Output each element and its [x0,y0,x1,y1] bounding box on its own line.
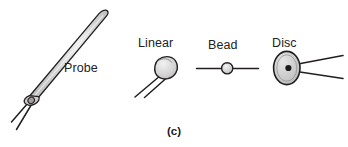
linear-lead-2 [145,78,167,98]
disc-label: Disc [272,36,297,50]
bead-body [222,63,233,74]
linear-element: Linear [135,36,177,98]
probe-label: Probe [64,61,98,75]
disc-element: Disc [272,36,343,85]
figure-caption: (c) [167,125,181,137]
linear-body [155,57,178,79]
disc-center-contact [285,65,291,71]
figure-canvas: Probe Linear Bead [0,0,348,147]
probe-highlight [34,16,104,98]
thermistor-types-figure: Probe Linear Bead [0,0,348,147]
probe-element: Probe [12,10,109,129]
bead-element: Bead [197,38,259,74]
bead-label: Bead [208,38,238,52]
linear-label: Linear [138,36,173,50]
probe-leads [12,103,32,130]
probe-lead-2 [12,103,29,122]
